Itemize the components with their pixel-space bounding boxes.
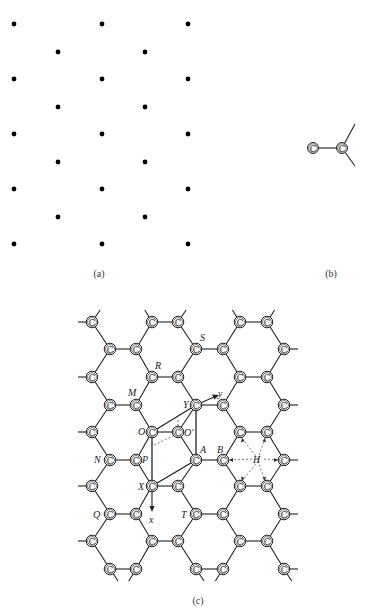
carbon-atom: C — [217, 343, 229, 355]
carbon-atom: C — [172, 535, 184, 547]
label-y-axis: y — [217, 388, 223, 399]
carbon-atom: C — [190, 399, 202, 411]
svg-text:C: C — [133, 510, 140, 520]
label-Y: Y — [183, 399, 190, 410]
carbon-atom: C — [104, 563, 116, 575]
svg-text:C: C — [89, 318, 96, 328]
svg-text:C: C — [220, 565, 227, 575]
svg-text:C: C — [149, 428, 156, 438]
svg-text:C: C — [133, 401, 140, 411]
label-O: O — [138, 426, 145, 437]
svg-text:C: C — [264, 482, 271, 492]
carbon-atom: C — [130, 399, 142, 411]
lattice-point — [186, 242, 191, 247]
svg-text:C: C — [107, 565, 114, 575]
lattice-point — [12, 22, 17, 27]
panel-c-graphene-lattice: CCCCCCCCCCCCCCCCCCCCCCCCCCCCCCCCCCCCCCCC… — [78, 310, 298, 581]
caption-b: (b) — [325, 268, 337, 280]
crystal-lattice-figure: (a) C C (b) — [0, 0, 365, 612]
lattice-point — [12, 77, 17, 82]
svg-text:C: C — [220, 401, 227, 411]
svg-text:C: C — [149, 318, 156, 328]
carbon-atom: C — [190, 508, 202, 520]
svg-text:C: C — [149, 482, 156, 492]
svg-text:C: C — [89, 482, 96, 492]
svg-text:C: C — [175, 482, 182, 492]
label-Q: Q — [93, 509, 101, 520]
label-N: N — [93, 454, 102, 465]
x-axis-arrowhead — [150, 506, 155, 512]
carbon-atom: C — [146, 426, 158, 438]
carbon-atom: C — [261, 426, 273, 438]
carbon-atom: C — [278, 508, 290, 520]
lattice-point — [12, 242, 17, 247]
lattice-point — [12, 187, 17, 192]
carbon-atom: C — [146, 316, 158, 328]
label-X: X — [137, 481, 145, 492]
label-x-axis: x — [148, 514, 154, 525]
carbon-atom: C — [104, 454, 116, 466]
lattice-point — [186, 187, 191, 192]
carbon-atom: C — [278, 563, 290, 575]
carbon-atom: C — [130, 454, 142, 466]
lattice-point — [100, 187, 105, 192]
svg-text:C: C — [339, 144, 346, 154]
carbon-atom: C — [217, 508, 229, 520]
svg-text:C: C — [133, 456, 140, 466]
label-P: P — [141, 454, 148, 465]
dashed-helper — [154, 436, 173, 445]
carbon-atom: C — [261, 480, 273, 492]
svg-text:C: C — [264, 537, 271, 547]
lattice-point — [56, 50, 61, 55]
svg-text:C: C — [310, 144, 317, 154]
svg-text:C: C — [281, 401, 288, 411]
label-A: A — [199, 444, 207, 455]
carbon-atom: C — [146, 371, 158, 383]
svg-text:C: C — [107, 456, 114, 466]
carbon-atom: C — [234, 535, 246, 547]
carbon-atom: C — [86, 426, 98, 438]
svg-text:C: C — [175, 428, 182, 438]
carbon-atom: C — [278, 399, 290, 411]
carbon-atom: C — [234, 316, 246, 328]
carbon-atom: C — [234, 371, 246, 383]
carbon-atom: C — [234, 480, 246, 492]
carbon-atom: C — [337, 143, 348, 154]
svg-text:C: C — [237, 318, 244, 328]
label-O-prime: O′ — [184, 427, 194, 438]
lattice-point — [56, 105, 61, 110]
svg-text:C: C — [133, 345, 140, 355]
carbon-atom: C — [190, 563, 202, 575]
lattice-point — [143, 215, 148, 220]
svg-text:C: C — [193, 345, 200, 355]
carbon-atom: C — [217, 454, 229, 466]
lattice-point — [143, 160, 148, 165]
caption-a: (a) — [93, 268, 104, 280]
lattice-point — [186, 132, 191, 137]
carbon-atom: C — [278, 343, 290, 355]
carbon-atom: C — [190, 343, 202, 355]
carbon-atom: C — [104, 399, 116, 411]
carbon-atom: C — [172, 480, 184, 492]
svg-text:C: C — [193, 510, 200, 520]
caption-c: (c) — [192, 595, 203, 607]
svg-text:C: C — [281, 456, 288, 466]
carbon-atom: C — [86, 480, 98, 492]
carbon-atom: C — [130, 343, 142, 355]
svg-text:C: C — [107, 510, 114, 520]
svg-text:C: C — [175, 318, 182, 328]
carbon-atom: C — [86, 371, 98, 383]
svg-text:C: C — [237, 537, 244, 547]
svg-text:C: C — [220, 510, 227, 520]
carbon-atom: C — [190, 454, 202, 466]
lattice-point — [100, 22, 105, 27]
svg-text:C: C — [237, 428, 244, 438]
carbon-atom: C — [278, 454, 290, 466]
label-M: M — [127, 387, 137, 398]
panel-b-carbon-basis: C C — [308, 124, 356, 166]
svg-text:C: C — [220, 456, 227, 466]
carbon-atom: C — [86, 535, 98, 547]
svg-text:C: C — [149, 537, 156, 547]
svg-text:C: C — [264, 373, 271, 383]
carbon-atom: C — [308, 143, 319, 154]
